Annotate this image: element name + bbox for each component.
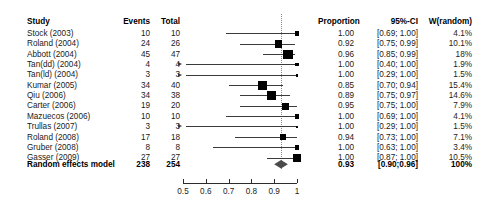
confidence-interval-line (267, 158, 297, 159)
row-ci: [0.75; 0.97] (358, 91, 418, 101)
summary-total: 254 (152, 160, 180, 170)
column-header-weight: W(random) (422, 17, 472, 27)
summary-weight: 100% (422, 160, 472, 170)
x-axis-tick (297, 179, 298, 183)
row-weight: 10.1% (422, 39, 472, 49)
row-weight: 4.1% (422, 29, 472, 39)
row-events: 3 (108, 122, 150, 132)
row-events: 10 (108, 29, 150, 39)
confidence-interval-line (263, 54, 295, 55)
forest-plot: StudyEventsTotalProportion95%-CIW(random… (0, 0, 490, 212)
row-total: 47 (152, 50, 180, 60)
row-events: 34 (108, 81, 150, 91)
row-total: 3 (152, 122, 180, 132)
row-ci: [0.29; 1.00] (358, 122, 418, 132)
x-axis-tick-label: 0.9 (260, 187, 288, 197)
study-effect-box (295, 145, 299, 149)
column-header-ci: 95%-CI (358, 17, 418, 27)
study-effect-box (267, 91, 276, 100)
row-proportion: 1.00 (318, 60, 354, 70)
row-ci: [0.29; 1.00] (358, 70, 418, 80)
x-axis-tick-label: 0.6 (192, 187, 220, 197)
x-axis-tick-label: 0.7 (215, 187, 243, 197)
row-total: 18 (152, 133, 180, 143)
confidence-interval-line (240, 106, 297, 107)
row-ci: [0.63; 1.00] (358, 143, 418, 153)
study-effect-box (283, 50, 293, 60)
row-total: 38 (152, 91, 180, 101)
study-effect-box (275, 40, 282, 47)
row-total: 20 (152, 101, 180, 111)
row-events: 19 (108, 101, 150, 111)
row-weight: 18% (422, 50, 472, 60)
row-proportion: 1.00 (318, 112, 354, 122)
row-proportion: 0.95 (318, 101, 354, 111)
row-weight: 1.5% (422, 122, 472, 132)
row-ci: [0.40; 1.00] (358, 60, 418, 70)
confidence-interval-line (186, 64, 297, 65)
confidence-interval-line (240, 44, 295, 45)
row-weight: 1.9% (422, 60, 472, 70)
study-effect-box (293, 154, 301, 162)
x-axis-tick-label: 0.8 (237, 187, 265, 197)
row-weight: 1.5% (422, 70, 472, 80)
x-axis-tick (251, 179, 252, 183)
confidence-interval-line (186, 126, 297, 127)
row-ci: [0.69; 1.00] (358, 112, 418, 122)
study-effect-box (295, 63, 298, 66)
column-header-proportion: Proportion (318, 17, 354, 27)
column-header-total: Total (152, 17, 180, 27)
x-axis-tick (229, 179, 230, 183)
row-proportion: 1.00 (318, 122, 354, 132)
x-axis-tick (274, 179, 275, 183)
row-proportion: 0.96 (318, 50, 354, 60)
row-weight: 4.1% (422, 112, 472, 122)
row-ci: [0.70; 0.94] (358, 81, 418, 91)
row-total: 40 (152, 81, 180, 91)
row-ci: [0.85; 0.99] (358, 50, 418, 60)
row-proportion: 1.00 (318, 143, 354, 153)
row-weight: 3.4% (422, 143, 472, 153)
row-events: 8 (108, 143, 150, 153)
confidence-interval-line (229, 85, 284, 86)
row-events: 4 (108, 60, 150, 70)
row-events: 45 (108, 50, 150, 60)
row-total: 3 (152, 70, 180, 80)
x-axis-tick (206, 179, 207, 183)
x-axis-tick-label: 1 (283, 187, 311, 197)
row-weight: 15.4% (422, 81, 472, 91)
row-proportion: 0.94 (318, 133, 354, 143)
summary-ci: [0.90;0.96] (358, 160, 418, 170)
row-total: 10 (152, 29, 180, 39)
row-proportion: 1.00 (318, 29, 354, 39)
row-weight: 7.9% (422, 101, 472, 111)
row-events: 34 (108, 91, 150, 101)
study-effect-box (296, 74, 299, 77)
confidence-interval-line (213, 147, 297, 148)
summary-proportion: 0.93 (318, 160, 354, 170)
confidence-interval-line (186, 75, 297, 76)
confidence-interval-line (226, 116, 297, 117)
study-effect-box (295, 114, 300, 119)
study-effect-box (295, 31, 300, 36)
study-effect-box (282, 103, 289, 110)
confidence-interval-line (240, 95, 290, 96)
study-effect-box (296, 126, 299, 129)
row-total: 8 (152, 143, 180, 153)
row-ci: [0.75; 1.00] (358, 101, 418, 111)
row-total: 26 (152, 39, 180, 49)
confidence-interval-line (226, 33, 297, 34)
row-total: 4 (152, 60, 180, 70)
confidence-interval-line (235, 137, 297, 138)
row-ci: [0.69; 1.00] (358, 29, 418, 39)
row-weight: 7.1% (422, 133, 472, 143)
row-proportion: 1.00 (318, 70, 354, 80)
study-effect-box (280, 134, 286, 140)
row-total: 10 (152, 112, 180, 122)
row-proportion: 0.89 (318, 91, 354, 101)
row-ci: [0.75; 0.99] (358, 39, 418, 49)
row-events: 24 (108, 39, 150, 49)
row-proportion: 0.85 (318, 81, 354, 91)
row-proportion: 0.92 (318, 39, 354, 49)
row-ci: [0.73; 1.00] (358, 133, 418, 143)
